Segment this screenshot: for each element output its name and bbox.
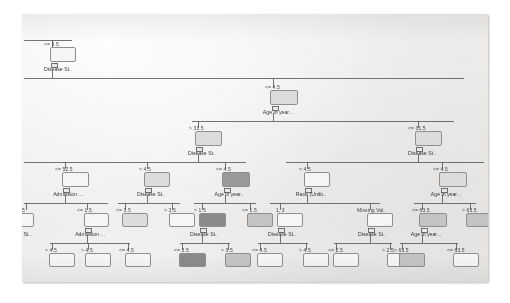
node-n5-label: Admission ... <box>44 191 92 197</box>
node-n15-box[interactable] <box>247 213 273 227</box>
edge-level6-bar-e <box>400 243 458 244</box>
node-n7-box[interactable] <box>222 172 250 187</box>
node-n17-box[interactable] <box>367 213 393 227</box>
node-n16-box[interactable] <box>277 213 303 227</box>
node-n11-box[interactable] <box>84 213 109 227</box>
node-n3-label: Disease St.. <box>180 150 224 156</box>
node-n10-box[interactable] <box>22 213 34 227</box>
node-n29-box[interactable] <box>399 253 425 267</box>
node-n2-box[interactable] <box>270 90 298 105</box>
node-n14-box[interactable] <box>199 213 226 227</box>
node-n7-label: Age in year.. <box>206 191 252 197</box>
node-n1-box[interactable] <box>50 47 76 62</box>
node-n20-box[interactable] <box>49 253 75 267</box>
node-n30-box[interactable] <box>453 253 479 267</box>
node-n17-label: Disease St.. <box>350 231 394 237</box>
edge-level6-bar-b <box>180 243 230 244</box>
node-n1-label: Disease St.. <box>36 66 80 72</box>
edge-level5-bar-c <box>194 203 256 204</box>
edge-level5-bar-d <box>270 203 380 204</box>
node-n18-label: Age in year... <box>402 231 450 237</box>
node-n4-label: Disease St.. <box>400 150 444 156</box>
node-n6-label: Disease St.. <box>129 191 173 197</box>
edge-level2-bar <box>24 78 464 79</box>
screenshot-canvas: <= 3.5 Disease St.. <= 4.5 Age in year..… <box>0 0 510 303</box>
node-n25-box[interactable] <box>257 253 283 267</box>
node-n2-label: Age in year... <box>254 109 302 115</box>
scanned-figure-plate: <= 3.5 Disease St.. <= 4.5 Age in year..… <box>22 14 488 282</box>
node-n9-box[interactable] <box>439 172 467 187</box>
node-n21-box[interactable] <box>85 253 111 267</box>
edge-n10-in <box>26 203 27 210</box>
edge-level6-bar-d <box>334 243 392 244</box>
edge-level4-bar-left <box>24 162 246 163</box>
node-n3-box[interactable] <box>195 131 222 146</box>
node-n4-box[interactable] <box>415 131 442 146</box>
node-n8-box[interactable] <box>304 172 330 187</box>
decision-tree: <= 3.5 Disease St.. <= 4.5 Age in year..… <box>22 14 488 282</box>
node-n27-box[interactable] <box>333 253 359 267</box>
node-n26-box[interactable] <box>303 253 329 267</box>
node-n10-label: St... <box>22 231 40 237</box>
edge-level5-bar-a <box>24 203 108 204</box>
edge-level6-bar-c <box>258 243 308 244</box>
node-n11-label: Admission ... <box>66 231 114 237</box>
node-n12-box[interactable] <box>122 213 148 227</box>
node-n23-box[interactable] <box>179 253 206 267</box>
node-n5-box[interactable] <box>62 172 89 187</box>
node-n13-box[interactable] <box>169 213 195 227</box>
node-n24-box[interactable] <box>225 253 251 267</box>
edge-level4-bar-right <box>286 162 484 163</box>
edge-level6-bar-a <box>50 243 130 244</box>
node-n19-box[interactable] <box>466 213 488 227</box>
edge-level5-bar-b <box>118 203 180 204</box>
node-n14-label: Disease St.. <box>182 231 226 237</box>
node-n16-label: Disease St.. <box>260 231 304 237</box>
node-n8-label: Race (Unifo.. <box>288 191 334 197</box>
node-n9-label: Age in year... <box>422 191 470 197</box>
node-n22-box[interactable] <box>125 253 151 267</box>
edge-level3-bar <box>192 121 454 122</box>
node-n18-box[interactable] <box>419 213 447 227</box>
edge-level5-bar-e <box>414 203 476 204</box>
node-n6-box[interactable] <box>144 172 170 187</box>
